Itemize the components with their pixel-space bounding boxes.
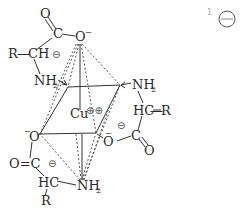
charge-copper: ⊕⊕ <box>86 105 103 116</box>
dash-top-tr <box>82 44 120 85</box>
dash-bottom-mid <box>76 134 81 180</box>
atom-bottom-carbonyl: O=C <box>9 156 41 171</box>
atom-right-o: O <box>144 143 155 158</box>
charge-right-ring: ⊖ <box>117 120 125 131</box>
structure-canvas: O C O − R — CH ⊖ NH 2 Cu ⊕⊕ NH 2 HC — R … <box>0 0 244 215</box>
circled-minus-icon <box>219 11 235 27</box>
atom-right-nh2-sub: 2 <box>151 85 156 94</box>
atom-top-carbonyl-c: C <box>53 26 63 41</box>
charge-top-ring: ⊖ <box>52 49 60 60</box>
chemical-diagram: O C O − R — CH ⊖ NH 2 Cu ⊕⊕ NH 2 HC — R … <box>0 0 244 215</box>
corner-number: 1 <box>207 8 212 17</box>
bond-top-c-o <box>62 34 75 36</box>
atom-right-r: R <box>161 103 172 118</box>
dash-bottom-tr <box>83 85 120 180</box>
bond-right-c-o <box>117 136 131 141</box>
dash-bottom-br <box>82 133 96 180</box>
atom-bottom-hc: HC <box>38 175 59 190</box>
charge-top-carboxylate: − <box>85 28 92 37</box>
atom-top-carbonyl-o: O <box>40 6 51 21</box>
dash-top-tl <box>68 44 79 87</box>
bond-top-ch-nh2 <box>34 59 40 74</box>
bond-right-nh2-hc <box>138 91 143 103</box>
atom-bottom-nh2-sub: 2 <box>96 186 101 195</box>
charge-right-carboxylate: − <box>105 129 112 138</box>
atom-right-c: C <box>131 128 141 143</box>
dash-bottom-bl <box>40 134 80 180</box>
atom-top-nh2-sub: 2 <box>53 81 58 90</box>
atom-top-ch: CH <box>28 46 49 61</box>
charge-bottom-ring: ⊖ <box>48 158 56 169</box>
atom-bottom-r: R <box>41 193 52 208</box>
bond-bottom-hc-nh2 <box>57 181 76 185</box>
atom-bottom-carboxylate-o: O <box>29 129 40 144</box>
